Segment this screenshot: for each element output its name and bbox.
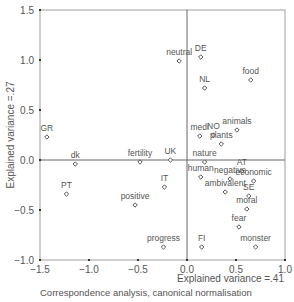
point-label: SE bbox=[243, 182, 255, 192]
chart-caption: Correspondence analysis, canonical norma… bbox=[40, 287, 252, 298]
data-point: nature bbox=[193, 148, 217, 164]
point-label: human bbox=[188, 163, 214, 173]
y-tick-label: −0.5 bbox=[14, 205, 34, 216]
diamond-marker-icon bbox=[133, 203, 137, 207]
point-label: moral bbox=[236, 195, 257, 205]
x-tick-label: −0.5 bbox=[128, 264, 148, 275]
data-point: positive bbox=[121, 191, 150, 207]
data-point: human bbox=[188, 163, 214, 179]
diamond-marker-icon bbox=[249, 78, 253, 82]
data-point: food bbox=[242, 66, 259, 82]
diamond-marker-icon bbox=[200, 245, 204, 249]
x-tick-label: −1.5 bbox=[30, 264, 50, 275]
point-label: UK bbox=[164, 146, 176, 156]
data-point: neutral bbox=[166, 47, 192, 63]
data-point: ambivalent bbox=[205, 178, 247, 194]
diamond-marker-icon bbox=[161, 245, 165, 249]
point-label: animals bbox=[222, 116, 251, 126]
diamond-marker-icon bbox=[199, 175, 203, 179]
point-label: GR bbox=[40, 123, 53, 133]
point-label: economic bbox=[235, 167, 272, 177]
diamond-marker-icon bbox=[245, 207, 249, 211]
point-label: IT bbox=[161, 173, 169, 183]
diamond-marker-icon bbox=[177, 59, 181, 63]
diamond-marker-icon bbox=[198, 134, 202, 138]
point-label: fear bbox=[232, 213, 247, 223]
diamond-marker-icon bbox=[235, 128, 239, 132]
point-label: plants bbox=[210, 130, 233, 140]
diamond-marker-icon bbox=[64, 192, 68, 196]
point-label: monster bbox=[240, 233, 271, 243]
data-point: GR bbox=[40, 123, 53, 139]
point-label: food bbox=[242, 66, 259, 76]
data-point: fertility bbox=[128, 148, 153, 164]
y-tick-label: 1.0 bbox=[20, 55, 34, 66]
diamond-marker-icon bbox=[162, 185, 166, 189]
data-point: monster bbox=[240, 233, 271, 249]
point-label: positive bbox=[121, 191, 150, 201]
point-label: ambivalent bbox=[205, 178, 247, 188]
diamond-marker-icon bbox=[237, 225, 241, 229]
y-axis-title: Explained variance =.27 bbox=[5, 81, 16, 188]
data-point: NL bbox=[199, 74, 210, 90]
y-axis-ticks: −1.0−0.50.00.51.01.5 bbox=[14, 5, 41, 266]
diamond-marker-icon bbox=[253, 245, 257, 249]
diamond-marker-icon bbox=[223, 190, 227, 194]
point-label: AT bbox=[237, 157, 247, 167]
diamond-marker-icon bbox=[45, 135, 49, 139]
data-point: DE bbox=[195, 43, 207, 59]
y-tick-label: 0.5 bbox=[20, 105, 34, 116]
data-point: IT bbox=[161, 173, 169, 189]
point-label: progress bbox=[147, 233, 180, 243]
plot-border bbox=[40, 10, 285, 260]
correspondence-scatter-plot: −1.5−1.0−0.50.00.51.0 −1.0−0.50.00.51.01… bbox=[0, 0, 294, 302]
data-point: moral bbox=[236, 195, 257, 211]
x-axis-title: Explained variance =.41 bbox=[177, 273, 284, 284]
data-point: fear bbox=[232, 213, 247, 229]
diamond-marker-icon bbox=[219, 142, 223, 146]
data-point: PT bbox=[61, 180, 72, 196]
point-label: DE bbox=[195, 43, 207, 53]
point-label: PT bbox=[61, 180, 72, 190]
diamond-marker-icon bbox=[168, 158, 172, 162]
x-tick-label: −1.0 bbox=[79, 264, 99, 275]
y-tick-label: −1.0 bbox=[14, 255, 34, 266]
diamond-marker-icon bbox=[73, 162, 77, 166]
data-point: progress bbox=[147, 233, 180, 249]
diamond-marker-icon bbox=[202, 86, 206, 90]
plot-frame bbox=[40, 10, 285, 260]
data-points: GRdkPTfertilityUKITpositiveprogressneutr… bbox=[40, 43, 272, 249]
point-label: NL bbox=[199, 74, 210, 84]
data-point: plants bbox=[210, 130, 233, 146]
point-label: nature bbox=[193, 148, 217, 158]
point-label: FI bbox=[198, 233, 206, 243]
diamond-marker-icon bbox=[199, 55, 203, 59]
point-label: fertility bbox=[128, 148, 153, 158]
data-point: dk bbox=[71, 150, 81, 166]
y-tick-label: 1.5 bbox=[20, 5, 34, 16]
point-label: neutral bbox=[166, 47, 192, 57]
y-tick-label: 0.0 bbox=[20, 155, 34, 166]
point-label: dk bbox=[71, 150, 81, 160]
data-point: FI bbox=[198, 233, 206, 249]
